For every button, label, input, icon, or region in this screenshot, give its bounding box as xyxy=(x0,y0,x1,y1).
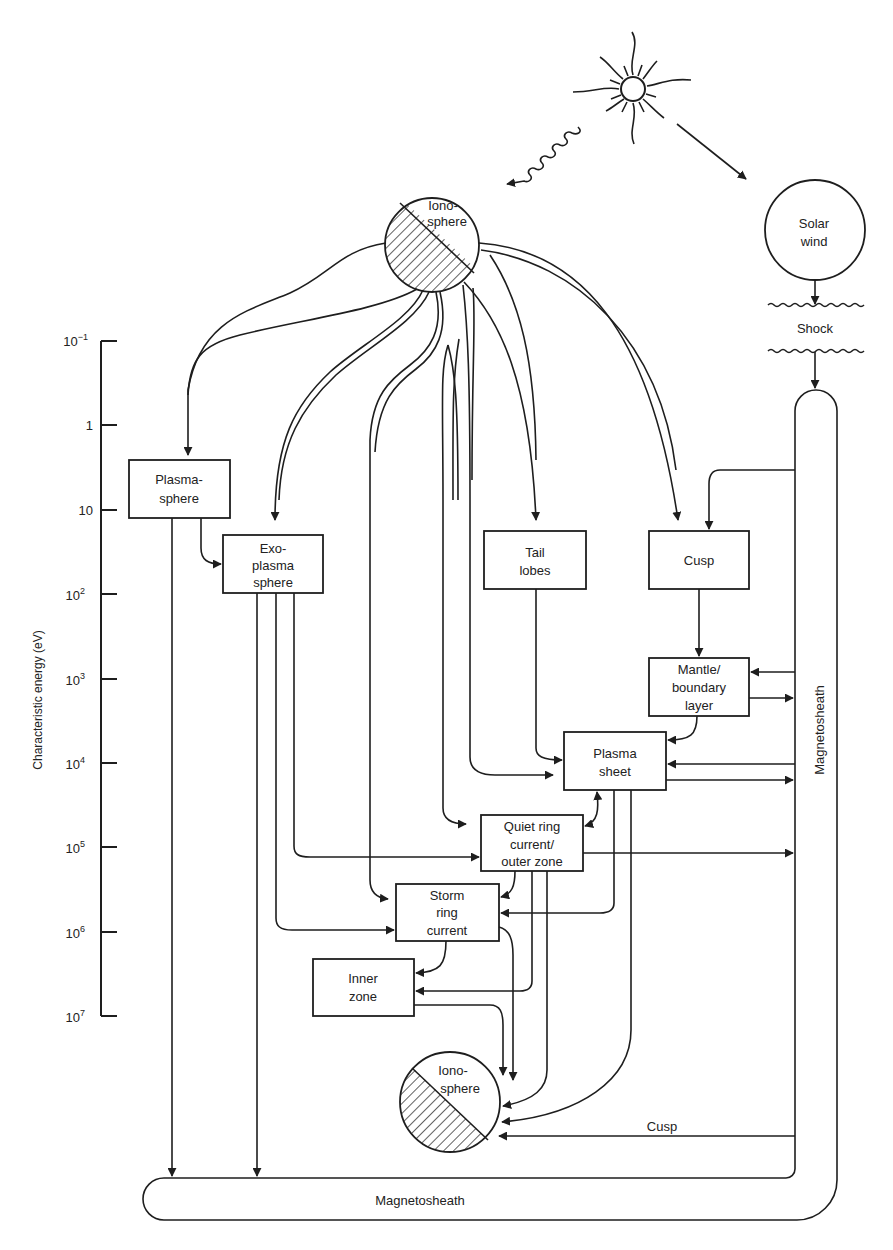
svg-text:current: current xyxy=(427,923,468,938)
svg-text:sphere: sphere xyxy=(159,491,199,506)
svg-text:sphere: sphere xyxy=(440,1081,480,1096)
ionosphere-label: sphere xyxy=(427,214,467,229)
svg-text:sphere: sphere xyxy=(253,575,293,590)
tick-label: 102 xyxy=(66,586,85,603)
ionosphere-label: Iono- xyxy=(428,198,458,213)
magnetosphere-plasma-flow-diagram: 10−1 1 10 102 103 104 105 106 107 Charac… xyxy=(0,0,893,1250)
ionosphere-source: Iono- sphere xyxy=(370,190,480,300)
shock-label: Shock xyxy=(797,321,834,336)
radiation-wavy-arrow xyxy=(507,127,580,184)
svg-text:Tail: Tail xyxy=(525,545,545,560)
axis-ticks xyxy=(101,341,117,1016)
svg-text:Solar: Solar xyxy=(799,216,830,231)
svg-text:Mantle/: Mantle/ xyxy=(678,662,721,677)
tick-label: 103 xyxy=(66,671,85,688)
magnetosheath-bottom-label: Magnetosheath xyxy=(375,1193,465,1208)
svg-text:Cusp: Cusp xyxy=(684,553,714,568)
svg-text:Quiet ring: Quiet ring xyxy=(504,819,560,834)
box-plasma-sheet: Plasma sheet xyxy=(564,732,666,790)
svg-text:Storm: Storm xyxy=(430,888,465,903)
ionosphere-sink: Iono- sphere xyxy=(390,1052,500,1170)
svg-text:sheet: sheet xyxy=(599,764,631,779)
energy-axis: 10−1 1 10 102 103 104 105 106 107 Charac… xyxy=(31,332,117,1025)
box-tail-lobes: Tail lobes xyxy=(484,531,586,589)
svg-text:Iono-: Iono- xyxy=(438,1063,468,1078)
svg-text:Inner: Inner xyxy=(348,971,378,986)
svg-text:outer zone: outer zone xyxy=(501,854,562,869)
svg-text:current/: current/ xyxy=(510,837,554,852)
solar-wind-arrow xyxy=(677,124,746,179)
solar-wind-source: Solar wind xyxy=(765,180,865,280)
box-inner-zone: Inner zone xyxy=(313,959,414,1016)
svg-text:zone: zone xyxy=(349,989,377,1004)
magnetosheath-right-label: Magnetosheath xyxy=(812,685,827,775)
box-cusp: Cusp xyxy=(649,531,749,589)
svg-text:lobes: lobes xyxy=(519,563,551,578)
cusp-path-label: Cusp xyxy=(647,1119,677,1134)
box-mantle-boundary-layer: Mantle/ boundary layer xyxy=(649,658,749,716)
box-exoplasmasphere: Exo- plasma sphere xyxy=(223,535,323,593)
shock-front-upper xyxy=(768,304,864,307)
tick-label: 105 xyxy=(66,839,85,856)
box-quiet-ring-current: Quiet ring current/ outer zone xyxy=(481,815,583,871)
tick-label: 106 xyxy=(66,924,85,941)
sun-icon xyxy=(573,32,691,144)
tick-label: 104 xyxy=(66,755,85,772)
tick-label: 1 xyxy=(86,418,93,433)
tick-label: 107 xyxy=(66,1008,85,1025)
svg-text:Exo-: Exo- xyxy=(260,541,287,556)
axis-title: Characteristic energy (eV) xyxy=(31,630,45,769)
svg-text:Plasma: Plasma xyxy=(593,746,637,761)
box-storm-ring-current: Storm ring current xyxy=(396,884,499,941)
shock-front-lower xyxy=(768,350,864,353)
svg-text:boundary: boundary xyxy=(672,680,727,695)
svg-text:ring: ring xyxy=(436,905,458,920)
tick-label: 10 xyxy=(79,503,93,518)
svg-text:layer: layer xyxy=(685,698,714,713)
svg-text:wind: wind xyxy=(800,234,828,249)
svg-text:Plasma-: Plasma- xyxy=(155,472,203,487)
box-plasmasphere: Plasma- sphere xyxy=(129,460,230,518)
svg-text:plasma: plasma xyxy=(252,558,295,573)
tick-label: 10−1 xyxy=(63,332,88,349)
